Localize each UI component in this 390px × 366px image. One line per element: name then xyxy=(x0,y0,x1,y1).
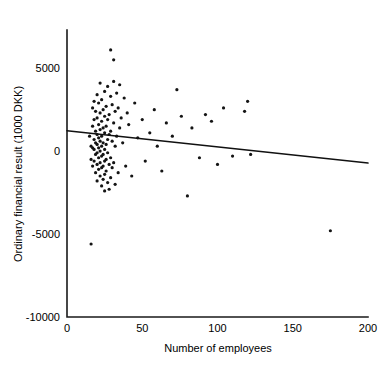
data-point xyxy=(112,80,115,83)
data-point xyxy=(156,145,159,148)
data-point xyxy=(111,103,114,106)
axis-lines xyxy=(67,30,368,317)
data-point xyxy=(97,123,100,126)
data-point xyxy=(96,151,99,154)
data-point xyxy=(117,171,120,174)
data-point xyxy=(141,118,144,121)
data-point xyxy=(103,148,106,151)
y-axis-tick-labels: 50000-5000-10000 xyxy=(26,62,60,323)
data-point xyxy=(118,126,121,129)
data-point xyxy=(102,164,105,167)
data-point xyxy=(198,156,201,159)
data-point xyxy=(126,111,129,114)
data-point xyxy=(111,166,114,169)
data-point xyxy=(231,154,234,157)
data-point xyxy=(160,169,163,172)
data-point xyxy=(97,101,100,104)
data-point xyxy=(99,161,102,164)
data-point xyxy=(91,125,94,128)
data-point xyxy=(109,95,112,98)
data-point xyxy=(97,136,100,139)
data-point xyxy=(92,148,95,151)
x-tick-label: 200 xyxy=(359,322,377,334)
axes-group xyxy=(67,30,368,317)
x-axis-tick-labels: 050100150200 xyxy=(64,322,377,334)
data-point xyxy=(109,156,112,159)
data-point xyxy=(92,138,95,141)
data-point xyxy=(120,116,123,119)
data-point xyxy=(180,115,183,118)
data-point xyxy=(99,81,102,84)
data-point xyxy=(186,194,189,197)
data-point xyxy=(100,98,103,101)
data-point xyxy=(94,171,97,174)
data-point xyxy=(165,121,168,124)
scatter-points-group xyxy=(88,48,332,245)
data-point xyxy=(106,118,109,121)
data-point xyxy=(103,90,106,93)
x-axis-title: Number of employees xyxy=(164,342,272,354)
data-point xyxy=(99,128,102,131)
data-point xyxy=(246,100,249,103)
data-point xyxy=(108,163,111,166)
data-point xyxy=(153,108,156,111)
data-point xyxy=(105,125,108,128)
data-point xyxy=(108,113,111,116)
data-point xyxy=(103,173,106,176)
y-tick-label: 0 xyxy=(54,145,60,157)
data-point xyxy=(109,130,112,133)
data-point xyxy=(103,115,106,118)
data-point xyxy=(171,135,174,138)
data-point xyxy=(105,143,108,146)
data-point xyxy=(243,110,246,113)
data-point xyxy=(204,113,207,116)
data-point xyxy=(106,85,109,88)
data-point xyxy=(100,184,103,187)
data-point xyxy=(210,120,213,123)
data-point xyxy=(106,151,109,154)
y-axis-title: Ordinary financial result (1000 DKK) xyxy=(12,86,24,262)
data-point xyxy=(102,153,105,156)
data-point xyxy=(105,169,108,172)
data-point xyxy=(118,83,121,86)
data-point xyxy=(100,120,103,123)
data-point xyxy=(102,126,105,129)
data-point xyxy=(123,96,126,99)
data-point xyxy=(92,118,95,121)
data-point xyxy=(102,141,105,144)
data-point xyxy=(96,163,99,166)
data-point xyxy=(117,106,120,109)
data-point xyxy=(96,179,99,182)
data-point xyxy=(97,168,100,171)
scatter-chart-figure: 050100150200 50000-5000-10000 Number of … xyxy=(0,0,390,366)
data-point xyxy=(121,141,124,144)
data-point xyxy=(96,143,99,146)
data-point xyxy=(99,174,102,177)
data-point xyxy=(190,126,193,129)
data-point xyxy=(100,145,103,148)
data-point xyxy=(222,106,225,109)
data-point xyxy=(99,150,102,153)
data-point xyxy=(144,159,147,162)
x-tick-label: 100 xyxy=(208,322,226,334)
data-point xyxy=(91,106,94,109)
data-point xyxy=(130,174,133,177)
data-point xyxy=(96,116,99,119)
y-tick-label: -10000 xyxy=(26,311,60,323)
data-point xyxy=(109,48,112,51)
data-point xyxy=(216,163,219,166)
data-point xyxy=(148,131,151,134)
data-point xyxy=(133,101,136,104)
data-point xyxy=(91,164,94,167)
data-point xyxy=(99,140,102,143)
chart-canvas: 050100150200 50000-5000-10000 Number of … xyxy=(0,0,390,366)
data-point xyxy=(175,88,178,91)
data-point xyxy=(109,176,112,179)
data-point xyxy=(102,178,105,181)
data-point xyxy=(249,153,252,156)
data-point xyxy=(115,91,118,94)
data-point xyxy=(89,242,92,245)
data-point xyxy=(114,183,117,186)
x-tick-label: 150 xyxy=(284,322,302,334)
data-point xyxy=(97,156,100,159)
